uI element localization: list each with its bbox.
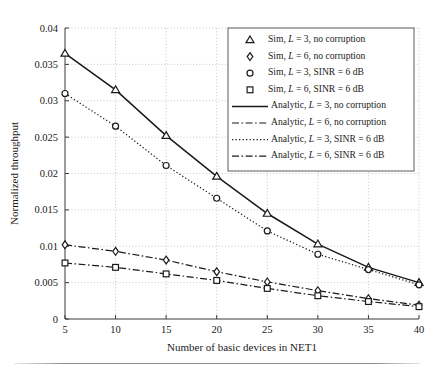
chart-canvas: 00.0050.010.0150.020.0250.030.0350.04 51… [0, 0, 435, 376]
legend-label: Analytic, L = 6, SINR = 6 dB [271, 149, 384, 160]
figure-container: 00.0050.010.0150.020.0250.030.0350.04 51… [0, 0, 435, 376]
bottom-divider [14, 363, 421, 364]
square-marker [315, 293, 321, 299]
legend-label: Analytic, L = 3, no corruption [271, 100, 386, 111]
x-tick-label: 15 [161, 324, 172, 335]
x-tick-label: 10 [110, 324, 121, 335]
square-marker [214, 278, 220, 284]
y-tick-label: 0 [53, 314, 58, 325]
circle-marker [62, 90, 68, 96]
square-marker [62, 260, 68, 266]
circle-marker [365, 267, 371, 273]
triangle-marker [314, 240, 322, 247]
legend-label: Sim, L = 3, no corruption [268, 33, 366, 44]
y-tick-label: 0.01 [40, 241, 58, 252]
y-tick-label: 0.015 [34, 204, 58, 215]
y-tick-label: 0.005 [34, 277, 58, 288]
y-tick-label: 0.025 [34, 132, 58, 143]
diamond-marker [264, 278, 270, 286]
x-tick-label: 5 [62, 324, 67, 335]
circle-marker [247, 70, 253, 76]
legend-label: Sim, L = 6, SINR = 6 dB [268, 83, 364, 94]
y-tick-label: 0.04 [40, 23, 59, 34]
square-marker [113, 264, 119, 270]
legend-label: Sim, L = 6, no corruption [268, 50, 366, 61]
circle-marker [113, 123, 119, 129]
y-tick-label: 0.035 [34, 59, 58, 70]
square-marker [416, 304, 422, 310]
x-tick-label: 35 [363, 324, 374, 335]
legend-label: Analytic, L = 3, SINR = 6 dB [271, 133, 384, 144]
square-marker [247, 87, 253, 93]
circle-marker [315, 251, 321, 257]
y-axis-tick-labels: 00.0050.010.0150.020.0250.030.0350.04 [34, 23, 58, 325]
circle-marker [214, 195, 220, 201]
legend-label: Sim, L = 3, SINR = 6 dB [268, 66, 364, 77]
y-tick-label: 0.02 [40, 168, 58, 179]
square-marker [264, 286, 270, 292]
square-marker [163, 271, 169, 277]
circle-marker [264, 228, 270, 234]
circle-marker [416, 282, 422, 288]
triangle-marker [112, 86, 120, 93]
diamond-marker [163, 256, 169, 264]
x-tick-label: 30 [313, 324, 324, 335]
series-line [65, 245, 419, 305]
x-tick-label: 40 [414, 324, 425, 335]
x-tick-label: 25 [262, 324, 273, 335]
legend[interactable]: Sim, L = 3, no corruptionSim, L = 6, no … [228, 28, 414, 171]
triangle-marker [263, 210, 271, 217]
x-axis-title: Number of basic devices in NET1 [167, 341, 317, 353]
circle-marker [163, 162, 169, 168]
legend-label: Analytic, L = 6, no corruption [271, 116, 386, 127]
diamond-marker [214, 268, 220, 276]
diamond-marker [62, 241, 68, 249]
diamond-marker [113, 247, 119, 255]
x-axis-tick-labels: 510152025303540 [62, 324, 424, 335]
square-marker [366, 299, 372, 305]
triangle-marker [61, 49, 69, 56]
y-axis-title: Normalized throughput [8, 122, 20, 225]
y-tick-label: 0.03 [40, 95, 58, 106]
x-tick-label: 20 [211, 324, 222, 335]
